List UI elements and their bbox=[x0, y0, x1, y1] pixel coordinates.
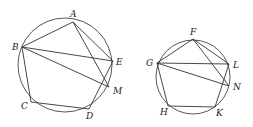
point-label-B: B bbox=[11, 42, 19, 52]
segment-HK bbox=[168, 106, 215, 107]
point-label-N: N bbox=[232, 82, 242, 92]
point-label-H: H bbox=[159, 107, 168, 117]
segment-FN bbox=[193, 39, 229, 86]
point-label-L: L bbox=[232, 60, 239, 70]
left-figure: ABEMCD bbox=[11, 9, 123, 121]
point-label-C: C bbox=[21, 101, 28, 111]
segment-BE bbox=[22, 47, 113, 61]
segment-EA bbox=[73, 22, 113, 61]
segment-GN bbox=[157, 63, 229, 86]
segment-LF bbox=[193, 39, 229, 64]
point-label-D: D bbox=[85, 111, 93, 121]
segment-AM bbox=[73, 22, 109, 87]
segment-BC bbox=[22, 47, 31, 102]
point-label-F: F bbox=[189, 27, 197, 37]
segment-CD bbox=[31, 102, 89, 109]
geometry-diagram: ABEMCDFGLNHK bbox=[0, 0, 253, 127]
point-label-A: A bbox=[69, 9, 77, 19]
point-label-M: M bbox=[112, 86, 123, 96]
right-figure: FGLNHK bbox=[146, 27, 242, 118]
circumscribed-circle bbox=[18, 18, 112, 112]
point-label-G: G bbox=[146, 58, 153, 68]
segment-BM bbox=[22, 47, 109, 87]
point-label-E: E bbox=[115, 57, 123, 67]
segment-FG bbox=[157, 39, 193, 63]
segment-GH bbox=[157, 63, 168, 106]
segment-GL bbox=[157, 63, 229, 64]
segment-DE bbox=[89, 61, 113, 109]
point-label-K: K bbox=[215, 108, 224, 118]
